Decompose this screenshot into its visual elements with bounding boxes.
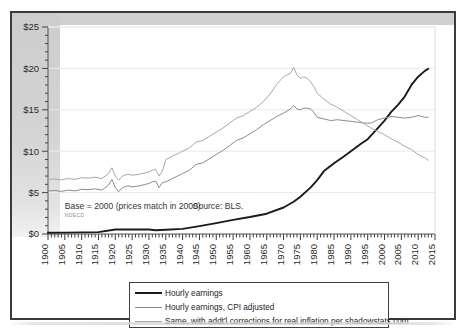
x-tick-label-1975: 1975 [291, 244, 302, 265]
figure-frame: $25$20$15$10$5$0 19001905191019151920192… [10, 11, 456, 320]
x-tick-label-1965: 1965 [258, 244, 269, 265]
scan-artifact [8, 322, 456, 325]
y-axis-ticks [42, 27, 48, 234]
y-tick-label-15: $15 [23, 104, 39, 115]
x-tick-label-1945: 1945 [190, 244, 201, 265]
y-tick-label-5: $5 [28, 187, 39, 198]
legend-item-shadowstats: Same, with addt'l corrections for real i… [130, 314, 388, 328]
plot-area: $25$20$15$10$5$0 19001905191019151920192… [12, 13, 458, 322]
x-tick-label-2005: 2005 [392, 244, 403, 265]
x-tick-label-1955: 1955 [224, 244, 235, 265]
x-tick-label-1905: 1905 [56, 244, 67, 265]
x-tick-label-1940: 1940 [174, 244, 185, 265]
annotation-source-note: Source: BLS. [193, 201, 244, 211]
legend-label-series-2: Hourly earnings, CPI adjusted [165, 303, 274, 312]
series-line-2 [48, 106, 428, 192]
legend-item-hourly-earnings: Hourly earnings [130, 286, 388, 300]
x-tick-label-2000: 2000 [376, 244, 387, 265]
x-tick-label-1950: 1950 [207, 244, 218, 265]
line-chart: $25$20$15$10$5$0 19001905191019151920192… [12, 13, 458, 322]
screenshot-root: $25$20$15$10$5$0 19001905191019151920192… [0, 0, 467, 335]
chart-annotations: Base = 2000 (prices match in 2000)Source… [65, 201, 244, 217]
x-axis-labels: 1900190519101915192019251930193519401945… [39, 244, 437, 265]
x-tick-label-1935: 1935 [157, 244, 168, 265]
legend-line-swatch-series-2 [135, 307, 162, 308]
legend-label-series-1: Hourly earnings [165, 289, 223, 298]
x-tick-label-2015: 2015 [426, 244, 437, 265]
y-tick-label-10: $10 [23, 146, 39, 157]
x-tick-label-1995: 1995 [359, 244, 370, 265]
annotation-faint-watermark: NDECD [65, 212, 85, 218]
y-tick-label-25: $25 [23, 21, 39, 32]
x-tick-label-1925: 1925 [123, 244, 134, 265]
x-tick-label-2010: 2010 [409, 244, 420, 265]
annotation-base-note: Base = 2000 (prices match in 2000) [65, 201, 201, 211]
legend-item-hourly-earnings-cpi: Hourly earnings, CPI adjusted [130, 300, 388, 314]
series-line-3 [48, 68, 428, 181]
x-tick-label-1915: 1915 [89, 244, 100, 265]
y-tick-label-20: $20 [23, 63, 39, 74]
x-tick-label-1985: 1985 [325, 244, 336, 265]
y-tick-label-0: $0 [28, 228, 39, 239]
x-tick-label-1990: 1990 [342, 244, 353, 265]
x-tick-label-1920: 1920 [106, 244, 117, 265]
gridlines [48, 27, 435, 193]
x-tick-label-1900: 1900 [39, 244, 50, 265]
x-tick-label-1930: 1930 [140, 244, 151, 265]
y-axis-labels: $25$20$15$10$5$0 [23, 21, 39, 239]
x-tick-label-1970: 1970 [275, 244, 286, 265]
x-tick-label-1910: 1910 [73, 244, 84, 265]
x-tick-label-1980: 1980 [308, 244, 319, 265]
x-tick-label-1960: 1960 [241, 244, 252, 265]
legend-line-swatch-series-1 [135, 292, 162, 294]
x-axis-ticks [48, 234, 435, 240]
